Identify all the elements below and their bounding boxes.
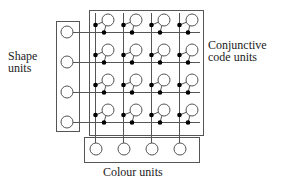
synapse-dot [186, 30, 191, 35]
conjunctive-unit [158, 104, 170, 116]
conjunctive-unit [186, 14, 198, 26]
synapse-dot [93, 53, 98, 58]
shape-unit [61, 56, 73, 68]
conjunctive-unit [158, 14, 170, 26]
conjunctive-unit [158, 74, 170, 86]
synapse-dot [158, 30, 163, 35]
conjunctive-unit [102, 44, 114, 56]
synapse-dot [186, 60, 191, 65]
synapse-dot [121, 83, 126, 88]
synapse-dot [149, 113, 154, 118]
synapse-dot [149, 23, 154, 28]
synapse-dot [177, 83, 182, 88]
synapse-dot [121, 113, 126, 118]
synapse-dot [102, 60, 107, 65]
synapse-dot [158, 90, 163, 95]
conjunctive-unit [186, 104, 198, 116]
conjunctive-units-label: Conjunctive code units [208, 39, 267, 63]
synapse-dot [149, 83, 154, 88]
synapse-dot [149, 53, 154, 58]
shape-unit [61, 26, 73, 38]
synapse-dot [121, 53, 126, 58]
shape-units-label: Shape units [8, 50, 37, 74]
synapse-dot [130, 30, 135, 35]
conjunctive-unit [186, 74, 198, 86]
conjunctive-unit [130, 74, 142, 86]
synapse-dot [158, 120, 163, 125]
synapse-dot [186, 90, 191, 95]
synapse-dot [93, 113, 98, 118]
synapse-dot [130, 90, 135, 95]
colour-units-label: Colour units [103, 166, 163, 178]
synapse-dot [130, 120, 135, 125]
synapse-dot [186, 120, 191, 125]
synapse-dot [130, 60, 135, 65]
conjunctive-units-box [90, 11, 204, 136]
synapse-dot [177, 113, 182, 118]
conjunctive-unit [130, 14, 142, 26]
conjunctive-unit [186, 44, 198, 56]
conjunctive-unit [130, 44, 142, 56]
synapse-dot [177, 53, 182, 58]
synapse-dot [93, 23, 98, 28]
colour-unit [118, 143, 130, 155]
conjunctive-unit [102, 104, 114, 116]
conjunctive-unit [130, 104, 142, 116]
synapse-dot [102, 90, 107, 95]
conjunctive-coding-diagram [0, 0, 285, 182]
synapse-dot [102, 120, 107, 125]
colour-unit [174, 143, 186, 155]
synapse-dot [102, 30, 107, 35]
conjunctive-unit [102, 74, 114, 86]
units [61, 14, 198, 155]
synapse-dot [93, 83, 98, 88]
conjunctive-unit [102, 14, 114, 26]
shape-unit [61, 86, 73, 98]
synapse-dot [177, 23, 182, 28]
conjunctive-unit [158, 44, 170, 56]
colour-unit [146, 143, 158, 155]
synapse-dot [158, 60, 163, 65]
shape-unit [61, 116, 73, 128]
colour-unit [90, 143, 102, 155]
synapse-dot [121, 23, 126, 28]
